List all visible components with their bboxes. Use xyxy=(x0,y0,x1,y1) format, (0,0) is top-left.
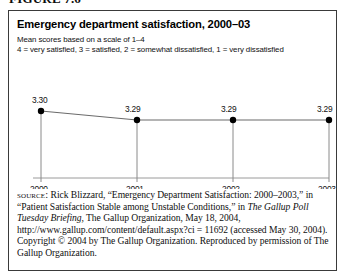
figure-caption-strip: FIGURE 7.6 xyxy=(0,0,349,8)
series-line xyxy=(41,111,329,120)
source-label: source: xyxy=(17,189,48,200)
x-tick-group xyxy=(41,178,329,182)
data-point xyxy=(134,117,140,123)
figure-caption: FIGURE 7.6 xyxy=(9,0,81,7)
figure-subtitle: Mean scores based on a scale of 1–4 4 = … xyxy=(17,35,284,54)
page-title: Emergency department satisfaction, 2000–… xyxy=(17,18,250,30)
line-chart: 3.303.293.293.29 2000200120022003 xyxy=(9,59,336,189)
data-point xyxy=(326,117,332,123)
data-point-label: 3.30 xyxy=(32,95,48,105)
data-point xyxy=(230,117,236,123)
subtitle-line-1: Mean scores based on a scale of 1–4 xyxy=(17,35,145,44)
data-point-label: 3.29 xyxy=(221,104,237,114)
data-point xyxy=(38,108,44,114)
figure-box: Emergency department satisfaction, 2000–… xyxy=(8,10,337,271)
data-point-markers xyxy=(38,108,332,123)
data-point-label: 3.29 xyxy=(125,104,141,114)
data-point-label: 3.29 xyxy=(317,104,333,114)
subtitle-line-2: 4 = very satisfied, 3 = satisfied, 2 = s… xyxy=(17,45,284,55)
source-note: source: Rick Blizzard, “Emergency Depart… xyxy=(17,189,329,259)
data-point-labels: 3.303.293.293.29 xyxy=(32,95,333,114)
drop-lines-group xyxy=(41,111,329,178)
chart-svg: 3.303.293.293.29 2000200120022003 xyxy=(9,59,336,189)
